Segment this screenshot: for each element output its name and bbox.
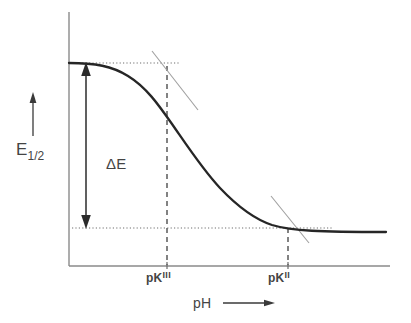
pk3-label: pKIII xyxy=(146,271,171,284)
y-axis-label-subscript: 1/2 xyxy=(28,149,45,163)
pk3-label-superscript: III xyxy=(162,270,171,280)
lower-tangent-line xyxy=(271,196,309,243)
pk2-label-superscript: II xyxy=(284,270,290,280)
plot-canvas xyxy=(0,0,411,323)
figure-container: E1/2 ΔE pKIII pKII pH xyxy=(0,0,411,323)
delta-e-arrow-head-down xyxy=(81,215,91,229)
pk3-label-main: pK xyxy=(146,271,162,285)
x-axis-label: pH xyxy=(193,296,211,310)
pk2-label-main: pK xyxy=(268,271,284,285)
delta-e-label: ΔE xyxy=(106,156,126,171)
pk2-label: pKII xyxy=(268,271,290,284)
y-axis-direction-arrowhead xyxy=(30,92,37,103)
y-axis-label-main: E xyxy=(16,140,28,159)
upper-tangent-line xyxy=(152,51,198,110)
y-axis-label: E1/2 xyxy=(16,141,44,162)
sigmoid-curve xyxy=(69,63,386,232)
x-axis-direction-arrowhead xyxy=(264,300,275,306)
